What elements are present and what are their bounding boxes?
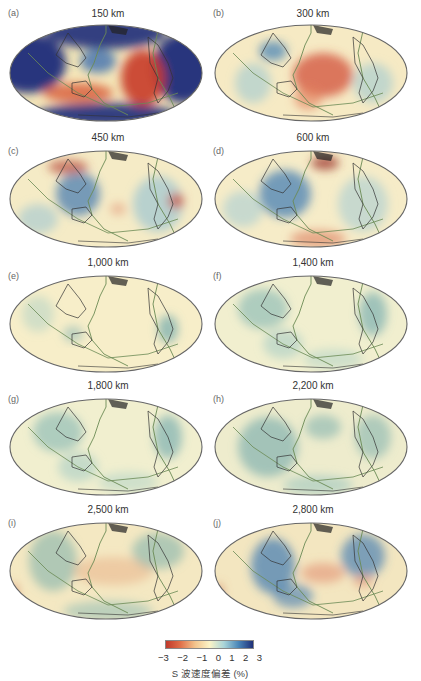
colorbar: −3 −2 −1 0 1 2 3 S 波速度偏差 (%) — [150, 630, 270, 680]
tick: 2 — [243, 652, 248, 663]
map-graphic — [213, 149, 409, 249]
depth-label: 1,800 km — [8, 380, 208, 391]
map-panel: 1,800 km (g) — [8, 380, 208, 502]
depth-label: 2,500 km — [8, 504, 208, 515]
colorbar-label: S 波速度偏差 (%) — [150, 666, 270, 680]
map-panel: 450 km (c) — [8, 132, 208, 254]
map-panel: 2,200 km (h) — [213, 380, 413, 502]
tomography-map — [213, 274, 409, 374]
depth-label: 600 km — [213, 132, 413, 143]
map-graphic — [8, 397, 204, 497]
map-panel: 150 km (a) — [8, 2, 208, 124]
tomography-map — [213, 397, 409, 497]
map-panel: 300 km (b) — [213, 2, 413, 124]
depth-label: 2,800 km — [213, 504, 413, 515]
map-graphic — [213, 397, 409, 497]
depth-label: 1,400 km — [213, 257, 413, 268]
tick: −3 — [158, 652, 169, 663]
tick: 3 — [257, 652, 262, 663]
tick: −2 — [177, 652, 188, 663]
panel-letter: (a) — [8, 8, 19, 18]
tomography-map — [213, 23, 409, 123]
tomography-map — [8, 521, 204, 621]
tomography-map — [8, 149, 204, 249]
map-panel: 600 km (d) — [213, 132, 413, 254]
map-graphic — [8, 149, 204, 249]
map-panel: 1,400 km (f) — [213, 257, 413, 379]
tick: 1 — [229, 652, 234, 663]
depth-label: 450 km — [8, 132, 208, 143]
panel-letter: (b) — [213, 8, 224, 18]
map-panel: 2,500 km (i) — [8, 504, 208, 626]
tomography-map — [213, 149, 409, 249]
depth-label: 2,200 km — [213, 380, 413, 391]
map-graphic — [213, 23, 409, 123]
map-graphic — [213, 274, 409, 374]
tomography-map — [8, 397, 204, 497]
map-panel: 1,000 km (e) — [8, 257, 208, 379]
tomography-map — [8, 23, 204, 123]
tomography-map — [213, 521, 409, 621]
tick: −1 — [196, 652, 207, 663]
map-panel: 2,800 km (j) — [213, 504, 413, 626]
map-graphic — [213, 521, 409, 621]
map-graphic — [8, 23, 204, 123]
colorbar-gradient — [165, 640, 254, 649]
map-graphic — [8, 521, 204, 621]
depth-label: 1,000 km — [8, 257, 208, 268]
colorbar-ticks: −3 −2 −1 0 1 2 3 — [158, 652, 262, 663]
depth-label: 300 km — [213, 8, 413, 19]
tick: 0 — [216, 652, 221, 663]
tomography-map — [8, 274, 204, 374]
map-graphic — [8, 274, 204, 374]
depth-label: 150 km — [8, 8, 208, 19]
